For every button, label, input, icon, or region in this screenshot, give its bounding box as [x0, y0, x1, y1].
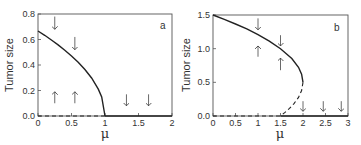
y-tick-label: 0.8: [22, 9, 35, 19]
y-tick-label: 1.0: [197, 44, 210, 54]
x-tick-label: 1: [255, 118, 260, 128]
y-tick-label: 0.6: [22, 35, 35, 45]
y-tick-label: 0.0: [197, 111, 210, 121]
panel-a-plot-area: 00.511.520.00.20.40.60.8: [22, 9, 174, 128]
y-tick-label: 0.4: [22, 60, 35, 70]
x-tick-label: 2: [169, 118, 174, 128]
x-tick-label: 0: [210, 118, 215, 128]
panel-b-plot-area: 00.511.522.530.00.51.01.5: [197, 10, 350, 128]
panel-b-chart: 00.511.522.530.00.51.01.5 b Tumor size μ: [180, 10, 351, 141]
series-line: [38, 31, 105, 116]
panel-a-chart: 00.511.520.00.20.40.60.8 a Tumor size μ: [3, 9, 175, 141]
panel-a-label: a: [160, 20, 166, 31]
y-tick-label: 1.5: [197, 10, 210, 20]
y-tick-label: 0.2: [22, 86, 35, 96]
axes-frame: [38, 14, 172, 116]
x-tick-label: 0: [35, 118, 40, 128]
panel-b-x-axis-title: μ: [276, 126, 284, 141]
panel-a-x-axis-title: μ: [101, 126, 109, 141]
x-tick-label: 2.5: [319, 118, 332, 128]
y-tick-label: 0.5: [197, 77, 210, 87]
y-tick-label: 0.0: [22, 111, 35, 121]
panel-a-y-axis-title: Tumor size: [3, 38, 15, 92]
series-line: [281, 82, 304, 116]
x-tick-label: 0.5: [65, 118, 78, 128]
x-tick-label: 0.5: [229, 118, 242, 128]
panel-b-label: b: [334, 22, 340, 33]
panel-b-y-axis-title: Tumor size: [180, 38, 192, 92]
x-tick-label: 2: [300, 118, 305, 128]
figure: 00.511.520.00.20.40.60.8 a Tumor size μ …: [0, 0, 361, 145]
x-tick-label: 1.5: [132, 118, 145, 128]
x-tick-label: 3: [345, 118, 350, 128]
